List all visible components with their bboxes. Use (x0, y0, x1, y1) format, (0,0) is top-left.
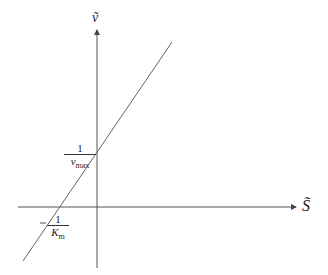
x-intercept-label: 1 Km (47, 214, 69, 242)
y-intercept-label: 1 vmax (64, 143, 96, 171)
x-axis-label: S̃ (302, 197, 310, 215)
y-intercept-numerator: 1 (64, 143, 96, 154)
y-axis-label: ṽ (92, 10, 98, 26)
x-intercept-denominator: Km (47, 225, 69, 242)
x-intercept-numerator: 1 (47, 214, 69, 225)
y-intercept-denominator: vmax (64, 154, 96, 171)
